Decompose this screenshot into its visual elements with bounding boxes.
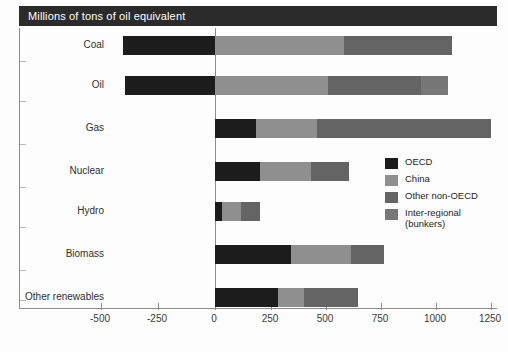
legend-swatch-other-non-oecd [385, 192, 398, 203]
category-axis-tick [20, 144, 26, 145]
category-label-coal: Coal [0, 39, 104, 50]
legend-item-china: China [385, 174, 497, 186]
bar-segment[interactable] [215, 119, 256, 138]
bar-segment[interactable] [222, 202, 241, 221]
legend-swatch-inter-regional [385, 209, 398, 220]
legend-label-oecd: OECD [405, 157, 432, 168]
bar-segment[interactable] [344, 36, 452, 55]
x-tick-label: 0 [190, 313, 238, 324]
bar-segment[interactable] [291, 245, 351, 264]
bar-segment[interactable] [125, 76, 215, 95]
category-label-nuclear: Nuclear [0, 165, 104, 176]
x-tick-label: 250 [246, 313, 294, 324]
legend-item-inter-regional: Inter-regional(bunkers) [385, 208, 497, 229]
category-axis-tick [20, 227, 26, 228]
bar-segment[interactable] [317, 119, 491, 138]
category-axis-tick [20, 270, 26, 271]
category-label-biomass: Biomass [0, 248, 104, 259]
legend-swatch-oecd [385, 158, 398, 169]
x-tick-label: 500 [301, 313, 349, 324]
bar-segment[interactable] [328, 76, 421, 95]
x-tick-label: -250 [133, 313, 181, 324]
bar-segment[interactable] [278, 288, 304, 307]
category-label-hydro: Hydro [0, 205, 104, 216]
category-axis-tick [20, 101, 26, 102]
legend-swatch-china [385, 175, 398, 186]
legend-label-inter-regional-line2: (bunkers) [405, 218, 445, 229]
legend-label-other-non-oecd: Other non-OECD [405, 191, 478, 202]
bar-segment[interactable] [241, 202, 260, 221]
bar-segment[interactable] [215, 36, 344, 55]
bar-segment[interactable] [123, 36, 215, 55]
legend-label-china: China [405, 174, 430, 185]
x-tick-label: 750 [356, 313, 404, 324]
bar-segment[interactable] [351, 245, 384, 264]
bar-segment[interactable] [256, 119, 317, 138]
bar-segment[interactable] [311, 162, 349, 181]
legend-item-oecd: OECD [385, 157, 497, 169]
bar-segment[interactable] [215, 245, 291, 264]
x-tick-label: 1250 [466, 313, 508, 324]
x-tick-label: -500 [76, 313, 124, 324]
bar-segment[interactable] [421, 76, 448, 95]
legend-label-inter-regional-line1: Inter-regional [405, 207, 461, 218]
chart-title-band: Millions of tons of oil equivalent [19, 6, 497, 26]
bar-segment[interactable] [215, 76, 328, 95]
legend-item-other-non-oecd: Other non-OECD [385, 191, 497, 203]
legend: OECD China Other non-OECD Inter-regional… [385, 157, 497, 234]
x-tick-label: 1000 [411, 313, 459, 324]
bar-segment[interactable] [304, 288, 358, 307]
category-axis-tick [20, 61, 26, 62]
bar-segment[interactable] [215, 162, 260, 181]
bar-segment[interactable] [215, 202, 222, 221]
chart-root: Millions of tons of oil equivalent CoalO… [0, 0, 508, 352]
bar-segment[interactable] [260, 162, 311, 181]
category-axis-tick [20, 187, 26, 188]
bar-segment[interactable] [215, 288, 278, 307]
category-label-other-renewables: Other renewables [0, 291, 104, 302]
category-label-oil: Oil [0, 79, 104, 90]
chart-title: Millions of tons of oil equivalent [19, 10, 185, 22]
legend-label-inter-regional: Inter-regional(bunkers) [405, 208, 461, 229]
category-label-gas: Gas [0, 122, 104, 133]
